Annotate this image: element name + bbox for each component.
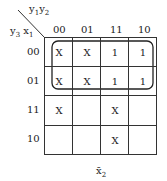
row-header-2: 11 xyxy=(27,105,40,115)
cell-r0-c1: X xyxy=(73,38,101,67)
col-header-1: 01 xyxy=(81,25,94,35)
row-header-1: 01 xyxy=(27,76,40,86)
cell-r1-c3: 1 xyxy=(129,67,157,96)
cell-r1-c0: X xyxy=(45,67,73,96)
col-header-2: 11 xyxy=(110,25,123,35)
row-header-3: 10 xyxy=(27,134,40,144)
cell-r1-c2: 1 xyxy=(101,67,129,96)
cell-r2-c2: X xyxy=(101,96,129,125)
cell-r1-c1: X xyxy=(73,67,101,96)
row-variable-label: y3 x1 xyxy=(10,26,33,39)
result-expression: x̄2 xyxy=(96,166,106,179)
cell-r0-c2: 1 xyxy=(101,38,129,67)
cell-r2-c3 xyxy=(129,96,157,125)
cell-r3-c1 xyxy=(73,126,101,155)
cell-r0-c0: X xyxy=(45,38,73,67)
row-header-0: 00 xyxy=(27,47,40,57)
col-header-0: 00 xyxy=(53,25,66,35)
cell-r3-c2: X xyxy=(101,126,129,155)
column-variable-label: y1y2 xyxy=(29,4,49,17)
cell-r3-c3 xyxy=(129,126,157,155)
cell-r0-c3: 1 xyxy=(129,38,157,67)
cell-r3-c0 xyxy=(45,126,73,155)
col-header-3: 10 xyxy=(138,25,151,35)
cell-r2-c1 xyxy=(73,96,101,125)
cell-r2-c0: X xyxy=(45,96,73,125)
